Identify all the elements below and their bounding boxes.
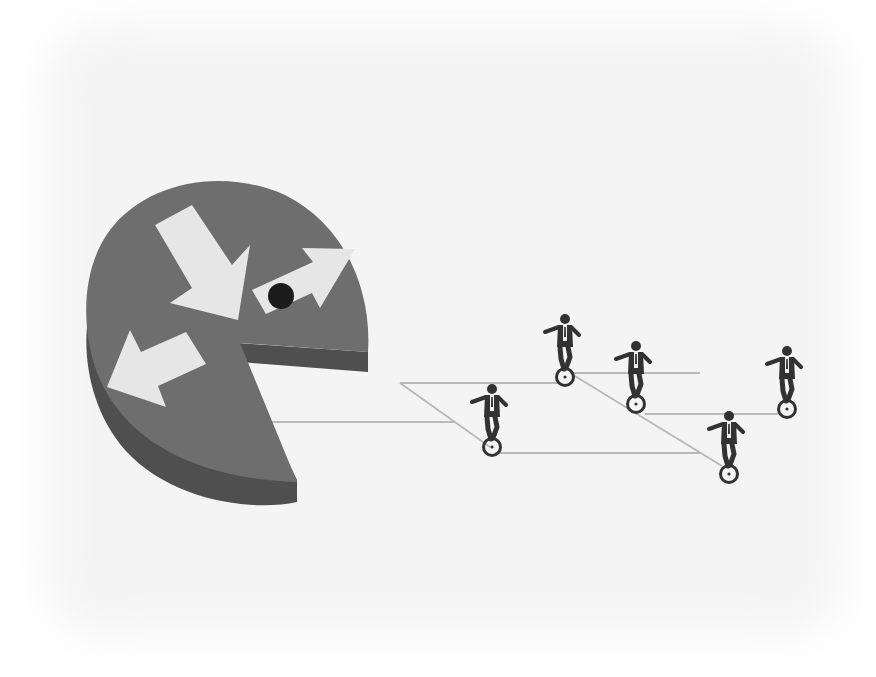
unicyclist-3: [616, 341, 650, 413]
perspective-lines: [258, 373, 778, 466]
legs: [487, 417, 497, 439]
unicyclist-2: [545, 314, 579, 386]
legs: [560, 347, 570, 369]
head: [724, 411, 734, 421]
unicyclist-5: [767, 346, 801, 418]
unicyclists: [472, 314, 801, 483]
pacman-disc: [86, 181, 368, 505]
scene: [0, 0, 876, 677]
head: [560, 314, 570, 324]
illustration: [0, 0, 876, 677]
unicyclist-1: [472, 384, 506, 456]
head: [631, 341, 641, 351]
head: [782, 346, 792, 356]
legs: [631, 374, 641, 396]
legs: [782, 379, 792, 401]
legs: [724, 444, 734, 466]
eye-dot: [268, 283, 294, 309]
head: [487, 384, 497, 394]
unicyclist-4: [709, 411, 743, 483]
perspective-line: [400, 383, 490, 447]
